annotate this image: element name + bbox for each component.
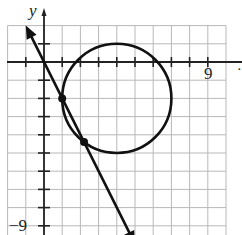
y-axis-arrow-icon	[42, 8, 47, 16]
graph-canvas: y 9 −9 ·	[0, 0, 242, 235]
y-tick-label-neg9: −9	[9, 216, 27, 235]
x-tick-label-9: 9	[204, 64, 213, 83]
intersection-point	[58, 94, 66, 102]
intersection-point	[80, 138, 88, 146]
y-axis-label: y	[27, 1, 37, 20]
x-axis-label-partial: ·	[237, 62, 242, 77]
